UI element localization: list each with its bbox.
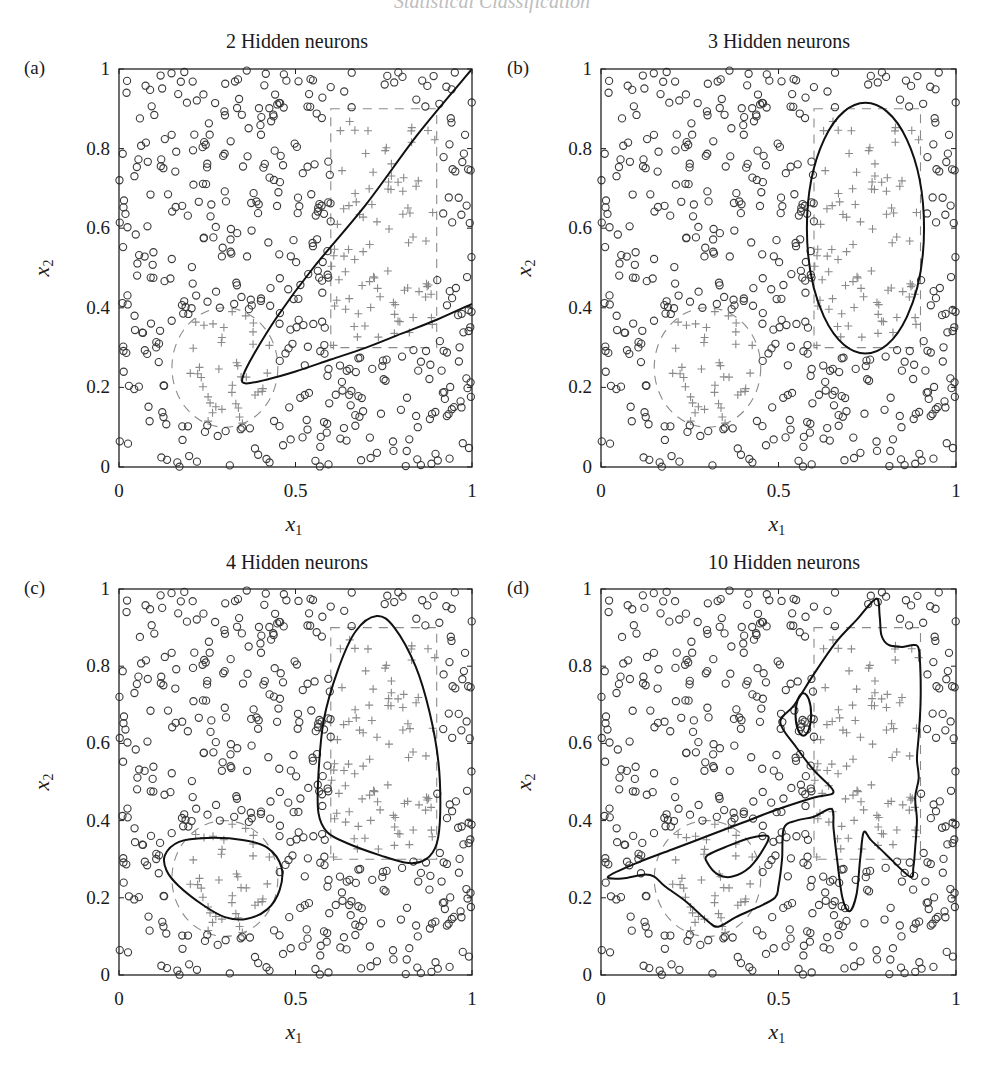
circle-marker <box>756 718 763 725</box>
circle-marker <box>678 714 685 721</box>
circle-marker <box>754 665 761 672</box>
circle-marker <box>740 640 747 647</box>
circle-marker <box>647 707 654 714</box>
circle-marker <box>692 749 699 756</box>
x-axis-label: x1 <box>769 1019 786 1047</box>
circle-marker <box>662 823 669 830</box>
cross-marker <box>850 816 858 824</box>
cross-marker <box>844 834 852 842</box>
circle-marker <box>601 668 608 675</box>
cross-marker <box>701 845 709 853</box>
circle-marker <box>721 806 728 813</box>
circle-marker <box>864 886 871 893</box>
circle-marker <box>683 749 690 756</box>
cross-marker <box>893 748 901 756</box>
circle-marker <box>672 598 679 605</box>
circle-marker <box>759 788 766 795</box>
circle-marker <box>934 913 941 920</box>
circle-marker <box>605 608 612 615</box>
cross-marker <box>828 760 836 768</box>
circle-marker <box>598 947 605 954</box>
y-axis-label: x2 <box>511 774 539 791</box>
circle-marker <box>786 926 793 933</box>
cross-marker <box>811 776 819 784</box>
circle-marker <box>744 601 751 608</box>
cross-marker <box>836 714 844 722</box>
circle-marker <box>951 903 958 910</box>
cross-marker <box>899 801 907 809</box>
circle-marker <box>808 876 815 883</box>
cross-marker <box>834 770 842 778</box>
circle-marker <box>737 725 744 732</box>
circle-marker <box>643 653 650 660</box>
circle-marker <box>945 649 952 656</box>
cross-marker <box>857 798 865 806</box>
circle-marker <box>788 784 795 791</box>
circle-marker <box>661 945 668 952</box>
cross-marker <box>871 677 879 685</box>
circle-marker <box>731 742 738 749</box>
cross-marker <box>843 762 851 770</box>
circle-marker <box>655 666 662 673</box>
circle-marker <box>675 805 682 812</box>
cross-marker <box>893 826 901 834</box>
circle-marker <box>772 852 779 859</box>
cross-marker <box>725 884 733 892</box>
circle-marker <box>898 878 905 885</box>
circle-marker <box>676 966 683 973</box>
circle-marker <box>709 970 716 977</box>
circle-marker <box>906 622 913 629</box>
circle-marker <box>605 597 612 604</box>
circle-marker <box>887 956 894 963</box>
circle-marker <box>850 963 857 970</box>
circle-marker <box>947 718 954 725</box>
circle-marker <box>942 727 949 734</box>
cross-marker <box>711 899 719 907</box>
cross-marker <box>889 841 897 849</box>
circle-marker <box>695 801 702 808</box>
circle-marker <box>667 728 674 735</box>
circle-marker <box>769 914 776 921</box>
circle-marker <box>690 717 697 724</box>
circle-marker <box>778 597 785 604</box>
circle-marker <box>689 728 696 735</box>
x-tick-label: 1 <box>951 989 961 1008</box>
reference-regions <box>654 628 920 937</box>
circle-marker <box>633 630 640 637</box>
circle-marker <box>607 893 614 900</box>
circle-marker <box>787 680 794 687</box>
circle-marker <box>820 873 827 880</box>
circle-marker <box>631 775 638 782</box>
circle-marker <box>783 834 790 841</box>
circle-marker <box>944 668 951 675</box>
cross-marker <box>682 834 690 842</box>
circle-marker <box>841 965 848 972</box>
x-tick-label: 0.5 <box>767 989 791 1008</box>
cross-marker <box>875 814 883 822</box>
circle-marker <box>797 781 804 788</box>
cross-marker <box>853 787 861 795</box>
circle-marker <box>682 610 689 617</box>
circle-marker <box>794 678 801 685</box>
circle-marker <box>861 920 868 927</box>
cross-marker <box>882 726 890 734</box>
circle-marker <box>762 950 769 957</box>
cross-marker <box>854 788 862 796</box>
cross-marker <box>697 876 705 884</box>
circle-marker <box>932 734 939 741</box>
circle-marker <box>701 767 708 774</box>
circle-marker <box>618 633 625 640</box>
circle-marker <box>668 961 675 968</box>
circle-marker <box>801 633 808 640</box>
circle-marker <box>727 670 734 677</box>
circle-marker <box>626 675 633 682</box>
circle-marker <box>650 770 657 777</box>
circle-marker <box>748 754 755 761</box>
circle-marker <box>800 952 807 959</box>
circle-marker <box>704 704 711 711</box>
circle-marker <box>927 922 934 929</box>
circle-marker <box>763 591 770 598</box>
circle-marker <box>873 947 880 954</box>
circle-marker <box>835 931 842 938</box>
circle-marker <box>936 798 943 805</box>
